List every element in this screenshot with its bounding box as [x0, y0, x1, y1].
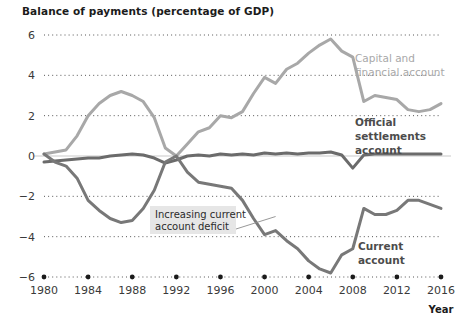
series-label: Official — [355, 116, 396, 128]
x-tick-label: 1992 — [162, 284, 190, 297]
balance-of-payments-chart: Balance of payments (percentage of GDP) … — [0, 0, 460, 321]
series-label: account — [355, 144, 402, 156]
x-tick-dot — [218, 275, 223, 280]
x-tick-label: 2008 — [339, 284, 367, 297]
y-tick-label: −4 — [19, 231, 35, 244]
x-tick-label: 2004 — [295, 284, 323, 297]
series-label: Current — [358, 240, 403, 252]
y-tick-label: 0 — [28, 150, 35, 163]
x-tick-label: 1980 — [30, 284, 58, 297]
x-tick-label: 1988 — [118, 284, 146, 297]
y-tick-label: 6 — [28, 29, 35, 42]
x-tick-label: 2016 — [427, 284, 455, 297]
y-axis-tick-labels: 6420−2−4−6 — [19, 29, 35, 284]
x-tick-dot — [262, 275, 267, 280]
series-label: financial account — [355, 66, 445, 78]
series-labels-group: Capital andfinancial accountOfficialsett… — [355, 52, 445, 266]
x-axis-tick-labels: 1980198419881992199620002004200820122016 — [30, 284, 455, 297]
y-tick-label: −2 — [19, 190, 35, 203]
x-tick-dot — [174, 275, 179, 280]
annotations-group: Increasing currentaccount deficit — [150, 206, 276, 234]
y-tick-label: 2 — [28, 110, 35, 123]
x-tick-label: 2012 — [383, 284, 411, 297]
x-tick-dot — [394, 275, 399, 280]
chart-plot-area: 6420−2−4−6 19801984198819921996200020042… — [0, 0, 460, 321]
x-tick-label: 2000 — [251, 284, 279, 297]
x-axis-title: Year — [428, 304, 454, 315]
y-tick-label: −6 — [19, 271, 35, 284]
annotation-text: account deficit — [155, 221, 229, 232]
series-label: account — [358, 254, 405, 266]
x-tick-label: 1996 — [206, 284, 234, 297]
x-tick-dot — [350, 275, 355, 280]
y-tick-label: 4 — [28, 69, 35, 82]
x-tick-dot — [86, 275, 91, 280]
x-tick-dot — [306, 275, 311, 280]
chart-title: Balance of payments (percentage of GDP) — [22, 5, 274, 17]
x-tick-dot — [130, 275, 135, 280]
x-tick-dot — [439, 275, 444, 280]
annotation-text: Increasing current — [155, 209, 246, 220]
x-tick-dot — [42, 275, 47, 280]
series-label: settlements — [355, 130, 426, 142]
series-label: Capital and — [355, 52, 415, 64]
x-tick-label: 1984 — [74, 284, 102, 297]
